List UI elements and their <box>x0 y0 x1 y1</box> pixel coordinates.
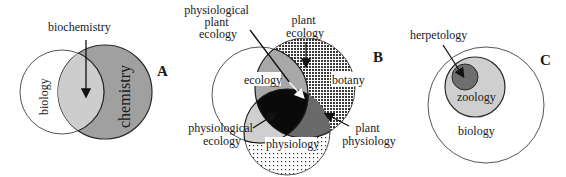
plant-physiology-label: plant physiology <box>342 121 395 148</box>
ecology-label: ecology <box>244 73 282 87</box>
zoology-label: zoology <box>457 90 496 104</box>
physiology-label: physiology <box>266 137 319 151</box>
venn-diagram-figure: biology chemistry biochemistry A ecology… <box>0 0 566 177</box>
botany-label: botany <box>332 73 365 87</box>
panel-c: herpetology zoology biology C <box>410 28 551 163</box>
herpetology-circle <box>452 64 478 90</box>
panel-c-letter: C <box>540 52 551 68</box>
panel-b: ecology botany physiology plant ecology … <box>184 3 396 175</box>
plant-ecology-label: plant ecology <box>286 13 324 40</box>
biochemistry-label: biochemistry <box>48 20 111 34</box>
panel-b-letter: B <box>373 49 383 65</box>
biology-label-c: biology <box>458 124 495 138</box>
biology-label: biology <box>37 78 51 115</box>
physiological-plant-ecology-label: physiological plant ecology <box>184 3 252 41</box>
herpetology-label: herpetology <box>410 28 467 42</box>
panel-a-letter: A <box>157 63 168 79</box>
panel-a: biology chemistry biochemistry A <box>20 20 168 139</box>
chemistry-label: chemistry <box>116 65 134 128</box>
zoology-circle <box>445 57 505 117</box>
